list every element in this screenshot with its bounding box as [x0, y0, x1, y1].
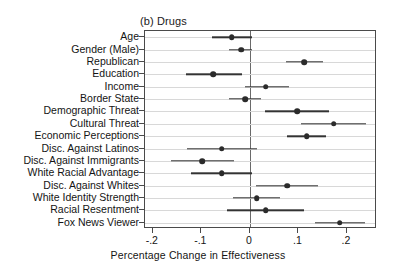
- y-axis-label-fox-news-viewer: Fox News Viewer: [58, 216, 140, 227]
- x-axis-tick-label: .2: [342, 234, 351, 246]
- point-estimate-marker: [242, 96, 248, 102]
- x-axis-tick-label: -.2: [146, 234, 158, 246]
- chart-title: (b) Drugs: [140, 15, 187, 27]
- point-estimate-marker: [219, 146, 225, 152]
- y-axis-label-disc-against-immigrants: Disc. Against Immigrants: [23, 154, 139, 165]
- x-axis-tick: [346, 228, 347, 233]
- point-estimate-marker: [199, 158, 205, 164]
- y-axis-label-education: Education: [92, 68, 139, 79]
- y-axis-label-republican: Republican: [86, 55, 139, 66]
- y-axis-label-disc-against-whites: Disc. Against Whites: [43, 179, 139, 190]
- point-estimate-marker: [284, 183, 290, 189]
- y-axis-label-gender-male: Gender (Male): [71, 43, 139, 54]
- coefficient-plot-figure: (b) Drugs AgeGender (Male)RepublicanEduc…: [0, 0, 396, 272]
- x-axis-tick-label: 0: [246, 234, 252, 246]
- point-estimate-marker: [254, 195, 260, 201]
- gridline: [145, 62, 375, 63]
- point-estimate-marker: [263, 208, 269, 214]
- point-estimate-marker: [219, 171, 225, 177]
- y-axis-label-white-identity-strength: White Identity Strength: [33, 192, 139, 203]
- gridline: [145, 111, 375, 112]
- gridline: [145, 37, 375, 38]
- point-estimate-marker: [331, 121, 337, 127]
- gridline: [145, 50, 375, 51]
- y-axis-label-disc-against-latinos: Disc. Against Latinos: [42, 142, 139, 153]
- x-axis-tick-label: .1: [293, 234, 302, 246]
- gridline: [145, 173, 375, 174]
- gridline: [145, 149, 375, 150]
- y-axis-label-demographic-threat: Demographic Threat: [43, 105, 139, 116]
- point-estimate-marker: [211, 72, 217, 78]
- y-axis-label-economic-perceptions: Economic Perceptions: [35, 130, 139, 141]
- x-axis-tick: [200, 228, 201, 233]
- y-axis-label-cultural-threat: Cultural Threat: [70, 117, 139, 128]
- point-estimate-marker: [263, 84, 269, 90]
- point-estimate-marker: [229, 34, 235, 40]
- gridline: [145, 74, 375, 75]
- point-estimate-marker: [337, 220, 343, 226]
- point-estimate-marker: [238, 47, 244, 53]
- point-estimate-marker: [294, 109, 300, 115]
- y-axis-label-income: Income: [105, 80, 139, 91]
- x-axis-tick-label: -.1: [194, 234, 206, 246]
- y-axis-label-white-racial-advantage: White Racial Advantage: [28, 167, 139, 178]
- y-axis-label-racial-resentment: Racial Resentment: [50, 204, 139, 215]
- y-axis-label-age: Age: [120, 31, 139, 42]
- point-estimate-marker: [304, 133, 310, 139]
- y-axis-category-labels: AgeGender (Male)RepublicanEducationIncom…: [0, 30, 139, 228]
- x-axis-tick: [249, 228, 250, 233]
- gridline: [145, 136, 375, 137]
- x-axis-tick: [152, 228, 153, 233]
- plot-area: [144, 30, 376, 228]
- x-axis-tick: [297, 228, 298, 233]
- point-estimate-marker: [301, 59, 307, 65]
- x-axis-label: Percentage Change in Effectiveness: [0, 249, 396, 261]
- y-axis-label-border-state: Border State: [80, 93, 139, 104]
